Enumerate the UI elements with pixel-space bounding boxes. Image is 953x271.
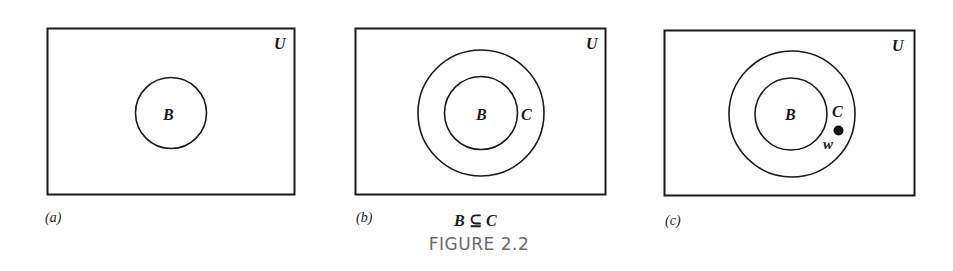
universe-label: U bbox=[586, 35, 599, 52]
figure-caption: FIGURE 2.2 bbox=[429, 234, 529, 254]
panel-a: U B (a) bbox=[45, 29, 295, 227]
set-c-label: C bbox=[521, 106, 532, 123]
panel-c: U B C w (c) bbox=[665, 31, 915, 230]
figure-canvas: U B (a) U B C (b) B ⊆ C U B C w (c) FIGU… bbox=[0, 0, 953, 271]
panel-b: U B C (b) B ⊆ C bbox=[356, 29, 606, 230]
panel-b-sublabel: (b) bbox=[356, 210, 373, 226]
universe-label: U bbox=[892, 37, 905, 54]
set-b-label: B bbox=[162, 106, 174, 123]
panel-a-sublabel: (a) bbox=[45, 210, 62, 226]
universe-label: U bbox=[274, 35, 287, 52]
element-w-label: w bbox=[823, 136, 834, 152]
element-w-dot bbox=[834, 126, 844, 136]
set-b-label: B bbox=[475, 106, 487, 123]
set-b-label: B bbox=[784, 106, 796, 123]
panel-c-sublabel: (c) bbox=[665, 213, 681, 229]
relation-label: B ⊆ C bbox=[453, 212, 497, 229]
set-c-label: C bbox=[832, 103, 843, 120]
